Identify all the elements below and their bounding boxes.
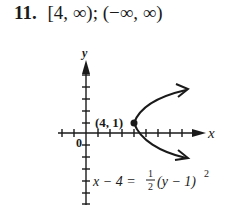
y-axis-arrow-icon [82, 60, 90, 74]
equation-rhs: (y − 1) [157, 174, 196, 190]
equation-frac-den: 2 [148, 181, 153, 192]
origin-label: 0 [76, 136, 82, 150]
y-axis [82, 68, 90, 205]
equation-frac-num: 1 [148, 168, 153, 179]
y-axis-label: y [80, 46, 88, 60]
vertex-point [131, 120, 138, 127]
parabola-graph: x y 0 (4, 1) x − 4 = 1 2 (y − 1) 2 [0, 0, 226, 209]
svg-text:x − 4 =: x − 4 = [92, 174, 136, 189]
x-axis-arrow-icon [192, 129, 206, 137]
x-axis-label: x [207, 125, 215, 141]
equation-lhs: x − 4 = [92, 174, 136, 189]
equation: x − 4 = 1 2 (y − 1) 2 [92, 168, 209, 192]
vertex-label: (4, 1) [95, 115, 123, 130]
equation-exponent: 2 [204, 168, 209, 179]
parabola-curve [134, 90, 186, 158]
